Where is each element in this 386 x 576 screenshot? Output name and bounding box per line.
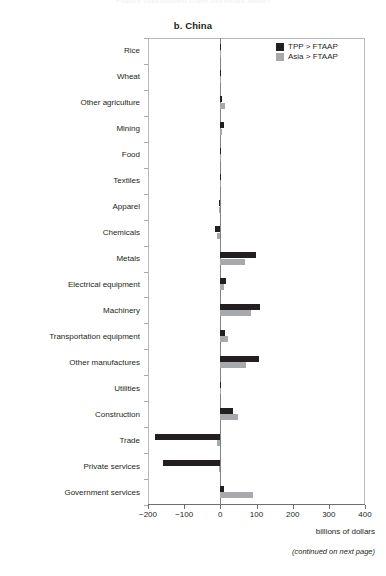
category-axis-labels: RiceWheatOther agricultureMiningFoodText… [0, 38, 144, 505]
x-tick [220, 505, 221, 509]
category-tick [144, 375, 148, 376]
x-tick [329, 505, 330, 509]
bar-asia [220, 336, 228, 342]
panel-title: b. China [0, 20, 386, 31]
bar-asia [220, 51, 221, 57]
bar-asia [220, 77, 221, 83]
bar-tpp [220, 122, 224, 128]
category-label: Mining [116, 124, 140, 133]
chart-legend: TPP > FTAAP Asia > FTAAP [276, 42, 380, 62]
x-tick [184, 505, 185, 509]
category-label: Textiles [113, 176, 140, 185]
legend-item-tpp: TPP > FTAAP [276, 42, 380, 51]
bar-asia [220, 181, 221, 187]
bar-tpp [163, 460, 220, 466]
bar-asia [217, 233, 221, 239]
bar-asia [220, 388, 221, 394]
category-label: Electrical equipment [68, 280, 140, 289]
category-tick [144, 401, 148, 402]
bar-asia [220, 103, 225, 109]
x-tick-label: −200 [139, 510, 157, 519]
category-tick [144, 64, 148, 65]
legend-item-asia: Asia > FTAAP [276, 52, 380, 61]
bar-asia [220, 259, 245, 265]
continued-note: (continued on next page) [0, 547, 375, 556]
category-tick [144, 349, 148, 350]
bar-asia [219, 466, 220, 472]
bar-tpp [220, 174, 221, 180]
category-label: Other manufactures [69, 358, 140, 367]
chart-plot-area [148, 38, 365, 505]
bar-asia [219, 207, 220, 213]
category-tick [144, 90, 148, 91]
category-label: Machinery [103, 306, 140, 315]
x-tick-label: 400 [358, 510, 371, 519]
bar-tpp [215, 226, 220, 232]
category-label: Transportation equipment [49, 332, 140, 341]
bar-tpp [220, 96, 222, 102]
category-tick [144, 116, 148, 117]
category-tick [144, 194, 148, 195]
legend-label-tpp: TPP > FTAAP [288, 42, 338, 51]
category-label: Apparel [112, 202, 140, 211]
category-label: Government services [64, 488, 140, 497]
category-label: Construction [95, 410, 140, 419]
bar-tpp [220, 382, 221, 388]
x-axis-title: billions of dollars [0, 527, 375, 536]
bar-tpp [220, 356, 259, 362]
category-tick [144, 246, 148, 247]
cut-off-figure-header: Figure (continued from previous page) [0, 0, 386, 3]
bar-asia [220, 129, 221, 135]
legend-swatch-tpp-icon [276, 43, 284, 51]
bar-asia [220, 414, 238, 420]
x-tick-label: −100 [175, 510, 193, 519]
bar-tpp [220, 70, 221, 76]
category-label: Other agriculture [80, 98, 140, 107]
category-tick [144, 38, 148, 39]
bar-tpp [220, 148, 221, 154]
x-tick [257, 505, 258, 509]
category-label: Trade [119, 436, 140, 445]
category-label: Utilities [114, 384, 140, 393]
category-label: Wheat [117, 72, 140, 81]
category-label: Food [122, 150, 140, 159]
category-label: Rice [124, 46, 140, 55]
x-tick-label: 200 [286, 510, 299, 519]
category-label: Chemicals [103, 228, 140, 237]
bar-asia [220, 362, 245, 368]
x-tick [365, 505, 366, 509]
category-tick [144, 479, 148, 480]
plot-frame-right [364, 38, 365, 505]
category-label: Metals [116, 254, 140, 263]
category-tick [144, 142, 148, 143]
bar-asia [220, 155, 221, 161]
bar-tpp [220, 44, 221, 50]
bar-asia [220, 310, 251, 316]
category-tick [144, 323, 148, 324]
category-tick [144, 272, 148, 273]
bar-tpp [220, 330, 225, 336]
x-tick [148, 505, 149, 509]
bar-tpp [220, 408, 233, 414]
legend-swatch-asia-icon [276, 53, 284, 61]
x-tick-label: 0 [218, 510, 222, 519]
bar-asia [220, 284, 223, 290]
x-tick-label: 100 [250, 510, 263, 519]
category-label: Private services [84, 462, 140, 471]
category-tick [144, 427, 148, 428]
category-tick [144, 168, 148, 169]
bar-tpp [220, 278, 226, 284]
plot-frame-left [148, 38, 149, 505]
plot-frame-top [148, 38, 365, 39]
bar-tpp [155, 434, 221, 440]
bar-tpp [220, 252, 256, 258]
x-tick-label: 300 [322, 510, 335, 519]
bar-tpp [219, 200, 220, 206]
bar-tpp [220, 486, 224, 492]
category-tick [144, 297, 148, 298]
bar-tpp [220, 304, 260, 310]
bar-asia [220, 492, 253, 498]
category-tick [144, 220, 148, 221]
bar-asia [217, 440, 221, 446]
category-tick [144, 453, 148, 454]
